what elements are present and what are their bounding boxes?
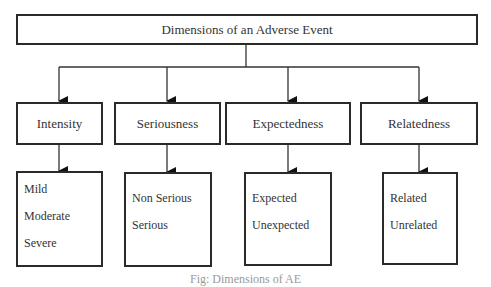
figure-caption: Fig: Dimensions of AE <box>0 272 491 287</box>
category-label: Intensity <box>37 116 83 132</box>
intensity-values: Mild Moderate Severe <box>16 171 103 267</box>
root-node: Dimensions of an Adverse Event <box>16 14 478 45</box>
relatedness-values: Related Unrelated <box>382 172 458 265</box>
seriousness-values: Non Serious Serious <box>124 172 212 267</box>
value-item: Unrelated <box>390 209 456 242</box>
category-expectedness: Expectedness <box>225 102 351 145</box>
expectedness-values: Expected Unexpected <box>244 172 332 266</box>
category-seriousness: Seriousness <box>114 102 221 145</box>
category-intensity: Intensity <box>16 102 103 145</box>
value-item: Unexpected <box>252 209 330 242</box>
root-label: Dimensions of an Adverse Event <box>161 22 332 38</box>
category-label: Relatedness <box>388 116 450 132</box>
category-label: Expectedness <box>253 116 324 132</box>
category-relatedness: Relatedness <box>360 102 478 145</box>
category-label: Seriousness <box>137 116 198 132</box>
